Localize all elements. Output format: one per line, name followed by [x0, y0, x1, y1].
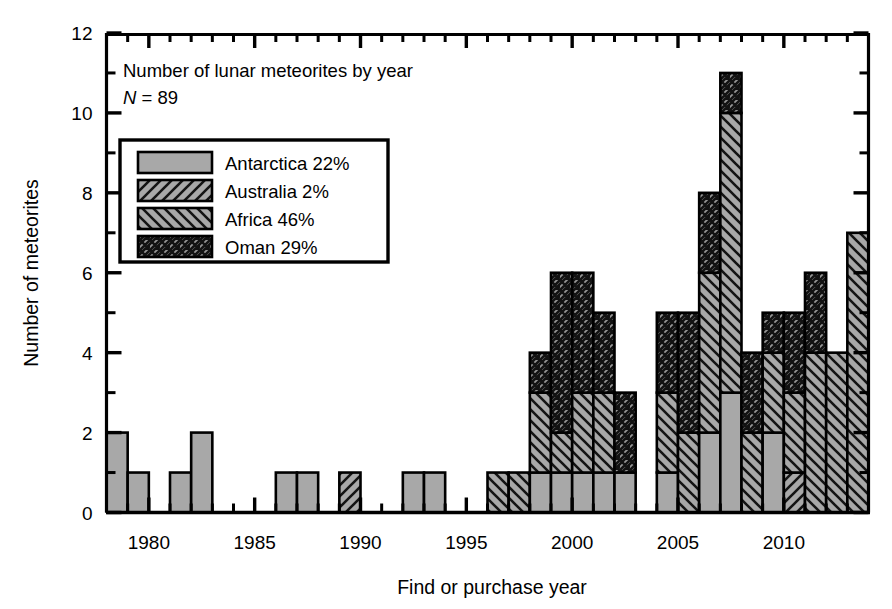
bar-column: [572, 273, 593, 513]
bar-segment-oman: [657, 313, 678, 393]
bar-segment-antarctica: [297, 473, 318, 513]
bar-segment-africa: [742, 433, 763, 513]
y-tick-label: 0: [82, 503, 93, 524]
bar-column: [699, 193, 720, 513]
bar-segment-africa: [488, 473, 509, 513]
legend-label-africa: Africa 46%: [225, 209, 314, 230]
bar-segment-antarctica: [170, 473, 191, 513]
bar-segment-oman: [678, 313, 699, 433]
bar-column: [297, 473, 318, 513]
chart-canvas: 024681012 1980198519901995200020052010 N…: [0, 0, 892, 609]
x-tick-label: 2000: [551, 532, 593, 553]
bar-segment-oman: [572, 273, 593, 393]
bar-segment-antarctica: [551, 473, 572, 513]
x-tick-label: 1995: [445, 532, 487, 553]
bar-segment-antarctica: [191, 433, 212, 513]
bar-column: [615, 393, 636, 513]
bar-column: [720, 73, 741, 513]
bar-segment-africa: [784, 393, 805, 473]
bar-column: [191, 433, 212, 513]
y-tick-label: 6: [82, 263, 93, 284]
sample-size-symbol: N: [123, 87, 137, 108]
x-tick-label: 1980: [128, 532, 170, 553]
legend-swatch-oman: [138, 236, 212, 257]
bar-column: [847, 233, 868, 513]
bar-segment-africa: [805, 353, 826, 513]
bar-segment-oman: [615, 393, 636, 473]
bar-segment-australia: [339, 473, 360, 513]
bar-column: [530, 353, 551, 513]
y-tick-label: 12: [71, 23, 92, 44]
bar-column: [509, 473, 530, 513]
bar-segment-oman: [551, 273, 572, 433]
bar-column: [678, 313, 699, 513]
bar-segment-africa: [593, 393, 614, 473]
y-tick-label: 10: [71, 103, 92, 124]
bar-segment-africa: [551, 433, 572, 473]
bar-column: [424, 473, 445, 513]
x-tick-label: 2010: [763, 532, 805, 553]
bar-segment-africa: [678, 433, 699, 513]
bar-column: [170, 473, 191, 513]
y-tick-label: 8: [82, 183, 93, 204]
legend-swatch-antarctica: [138, 152, 212, 173]
bar-segment-africa: [699, 273, 720, 433]
x-tick-label: 1990: [339, 532, 381, 553]
bar-column: [826, 353, 847, 513]
bar-column: [488, 473, 509, 513]
bar-segment-africa: [763, 353, 784, 433]
y-tick-labels: 024681012: [71, 23, 93, 524]
legend-label-antarctica: Antarctica 22%: [225, 153, 349, 174]
bar-segment-antarctica: [657, 473, 678, 513]
bar-column: [763, 313, 784, 513]
bar-segment-africa: [572, 393, 593, 473]
y-tick-label: 4: [82, 343, 93, 364]
y-axis-title: Number of meteorites: [20, 179, 42, 367]
bar-column: [784, 313, 805, 513]
bar-column: [805, 273, 826, 513]
bar-segment-oman: [763, 313, 784, 353]
bar-segment-antarctica: [615, 473, 636, 513]
sample-size-annotation: N = 89: [123, 87, 178, 108]
bar-segment-antarctica: [128, 473, 149, 513]
x-tick-label: 1985: [234, 532, 276, 553]
bar-segment-oman: [699, 193, 720, 273]
bar-segment-antarctica: [593, 473, 614, 513]
legend-label-australia: Australia 2%: [225, 181, 329, 202]
bar-segment-africa: [530, 393, 551, 473]
bar-segment-antarctica: [530, 473, 551, 513]
bar-segment-africa: [657, 393, 678, 473]
bar-segment-australia: [784, 473, 805, 513]
bar-column: [339, 473, 360, 513]
legend-swatch-australia: [138, 180, 212, 201]
x-axis-title: Find or purchase year: [397, 576, 587, 598]
bar-segment-oman: [805, 273, 826, 353]
bar-column: [403, 473, 424, 513]
bar-segment-antarctica: [424, 473, 445, 513]
legend: Antarctica 22%Australia 2%Africa 46%Oman…: [120, 140, 388, 262]
bar-segment-oman: [593, 313, 614, 393]
bar-segment-antarctica: [403, 473, 424, 513]
bar-segment-antarctica: [276, 473, 297, 513]
bar-segment-oman: [530, 353, 551, 393]
legend-label-oman: Oman 29%: [225, 237, 318, 258]
bar-segment-oman: [742, 353, 763, 433]
bar-segment-oman: [784, 313, 805, 393]
bar-column: [551, 273, 572, 513]
bar-column: [742, 353, 763, 513]
bar-column: [128, 473, 149, 513]
x-tick-labels: 1980198519901995200020052010: [128, 532, 805, 553]
bar-segment-africa: [826, 353, 847, 513]
bar-segment-antarctica: [699, 433, 720, 513]
bar-segment-africa: [509, 473, 530, 513]
bar-segment-antarctica: [763, 433, 784, 513]
bar-column: [593, 313, 614, 513]
bar-column: [657, 313, 678, 513]
lunar-meteorites-histogram-figure: 024681012 1980198519901995200020052010 N…: [0, 0, 892, 609]
chart-inline-title: Number of lunar meteorites by year: [123, 60, 413, 81]
bar-segment-oman: [720, 73, 741, 113]
bar-segment-antarctica: [720, 393, 741, 513]
bar-column: [276, 473, 297, 513]
bar-segment-africa: [847, 233, 868, 513]
y-tick-label: 2: [82, 423, 93, 444]
